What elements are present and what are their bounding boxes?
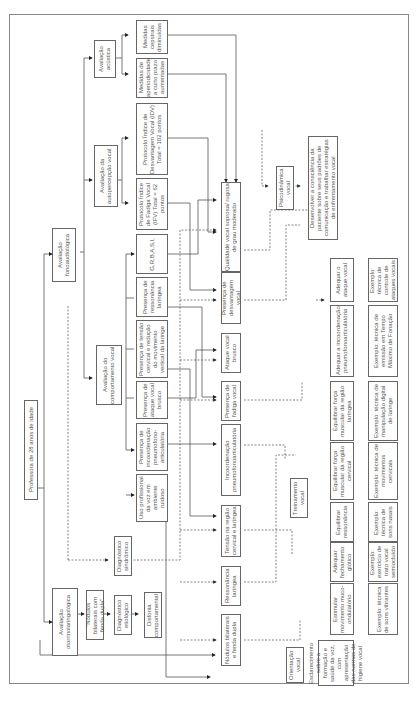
- laryngeal-resonance-finding-box: Presença de ressonância laríngea: [136, 277, 168, 317]
- laryngeal-resonance-problem-box: Ressonância laríngea: [221, 566, 241, 606]
- cepstral-measures-box: Medidas cepstrais diminuídas: [136, 20, 168, 54]
- nasal-sounds-example-box: Exemplo: técnica de sons nasais: [368, 502, 398, 542]
- fono-eval-box: Avaliação fonoaudiológica: [52, 228, 76, 282]
- laryngeal-force-goal-box: Equilibrar força muscular da região larí…: [330, 381, 354, 441]
- vocal-orientation-box: Orientação vocal: [286, 647, 304, 683]
- grbasi-box: G,R,B,A,S,I,: [136, 234, 168, 274]
- attack-example-box: Exemplo: técnica de controle de ataques …: [368, 258, 398, 302]
- vocal-fatigue-problem-box: Presença de fadiga vocal: [221, 381, 241, 421]
- voice-quality-problem-box: Qualidade vocal soprosa/ rugosa de grau …: [221, 182, 241, 272]
- ifv-protocol-box: Protocolo Índice de Fadiga Vocal (IFV) T…: [136, 178, 168, 230]
- otorrino-eval-box: Avaliação otorrinolaringológica: [52, 588, 78, 656]
- cervical-tension-problem-box: Tensão na região cervical e laríngea: [221, 505, 241, 557]
- behavior-eval-box: Avaliação do comportamento vocal: [96, 345, 122, 405]
- tmf-example-box: Exemplo: técnica de emissão em Tempo Máx…: [368, 305, 398, 377]
- vibrant-sounds-example-box: Exemplo: técnica de sons vibrantes: [368, 583, 398, 635]
- sovt-example-box: Exemplo: exercício de trato vocal semioc…: [368, 542, 398, 582]
- incoordination-finding-box: Presença de incoordenação pneumofono-art…: [136, 423, 168, 471]
- mucosal-wave-goal-box: Estimular movimento muco-ondulatório: [330, 583, 354, 635]
- self-perception-eval-box: Avaliação da autopercepção vocal: [94, 145, 118, 207]
- hard-attack-problem-box: Ataque vocal brusco: [221, 333, 241, 373]
- awareness-goal-box: Desenvolver a consciência da paciente so…: [308, 136, 338, 240]
- incoordination-goal-box: Adequar a incoordenação pneumofonoarticu…: [330, 305, 354, 377]
- hard-attack-finding-box: Presença de ataque vocal brusco: [136, 381, 168, 419]
- professional-voice-use-box: Uso profissional da voz em ambiente ruid…: [136, 474, 168, 522]
- vocal-hygiene-goal-box: Esclarecimento sobre a formação e saúde …: [318, 640, 354, 686]
- syndromic-diagnosis-box: Diagnóstico sindrômico: [114, 536, 132, 576]
- vocal-training-box: Treinamento vocal: [290, 478, 308, 518]
- aperiodicity-measures-box: Medidas de aperiodicidade a curto prazo …: [136, 58, 168, 98]
- resonance-goal-box: Equilibrar ressonância: [330, 502, 354, 542]
- nodules-problem-box: Nódulos bilaterais e fenda dupla: [221, 614, 241, 666]
- attack-goal-box: Adequar o ataque vocal: [330, 258, 354, 302]
- digital-manipulation-example-box: Exemplo: técnica de manipulação digital …: [368, 381, 398, 441]
- incoordination-problem-box: Incoordenação pneumofonoarticulatória: [221, 424, 241, 496]
- vocal-handicap-problem-box: Presença de desvantagem vocal: [221, 272, 241, 324]
- cervical-force-goal-box: Equilibrar força muscular da região cerv…: [330, 442, 354, 500]
- cervical-tension-finding-box: Presença de tensão cervical e redução do…: [136, 320, 168, 378]
- glottic-closure-goal-box: Adequar fechamento glótico: [330, 542, 354, 582]
- behavioral-dysphonia-box: Disfonia comportamental: [144, 592, 162, 638]
- acoustic-eval-box: Avaliação acústica: [94, 40, 116, 78]
- root-patient-box: Professora de 28 anos de idade: [24, 400, 38, 500]
- cervical-movements-example-box: Exemplo: técnica de movimentos cervicais: [368, 442, 398, 500]
- psychodynamics-box: Psicodinâmica vocal: [276, 166, 294, 210]
- nodules-diagnosis-box: "Nódulos bilaterais com fenda dupla": [86, 590, 104, 640]
- etiologic-diagnosis-box: Diagnóstico etiológico: [114, 595, 132, 635]
- idv-protocol-box: Protocolo Índice de Desvantagem Vocal (I…: [136, 103, 168, 175]
